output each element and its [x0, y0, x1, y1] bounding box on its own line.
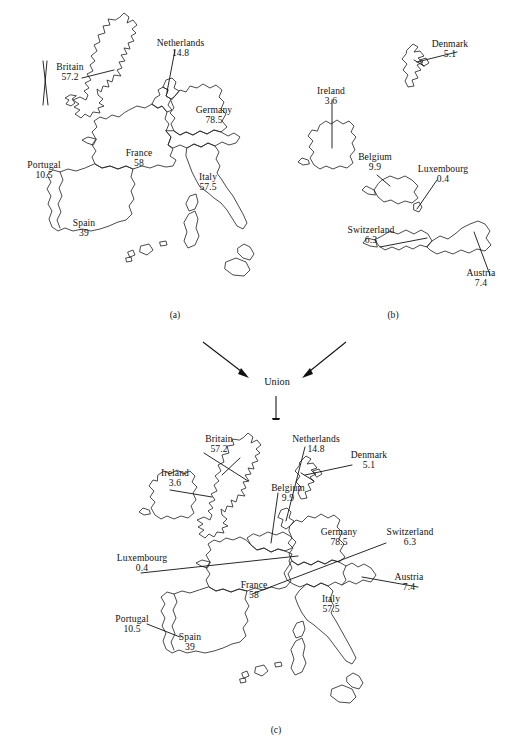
- label-value: 9.9: [261, 493, 315, 503]
- label-austria-c: Austria 7.4: [382, 572, 436, 592]
- arrow-from-panel-a: [203, 342, 249, 378]
- figure-root: Britain 57.2 Netherlands 14.8 Germany 78…: [0, 0, 514, 752]
- label-value: 5.1: [340, 460, 398, 470]
- label-value: 58: [228, 590, 280, 600]
- label-value: 10.5: [103, 624, 161, 634]
- balearic-menorca-c: [275, 662, 282, 667]
- ireland-west-tip-c: [139, 508, 150, 515]
- label-germany-c: Germany 78.5: [310, 527, 368, 547]
- label-portugal-c: Portugal 10.5: [103, 614, 161, 634]
- label-france-c: France 58: [228, 580, 280, 600]
- britain-leader-c: [204, 453, 248, 481]
- label-italy-c: Italy 57.5: [309, 594, 353, 614]
- arrow-from-panel-b: [302, 342, 346, 378]
- label-belgium-c: Belgium 9.9: [261, 483, 315, 503]
- arrow-to-panel-c: [272, 396, 280, 420]
- label-value: 7.4: [382, 582, 436, 592]
- label-value: 3.6: [147, 478, 203, 488]
- balearic-ibiza-c: [242, 671, 249, 678]
- label-value: 39: [168, 642, 212, 652]
- label-ireland-c: Ireland 3.6: [147, 468, 203, 488]
- italy-toe-outline-c: [347, 673, 363, 689]
- label-value: 57.2: [190, 444, 248, 454]
- label-switzerland-c: Switzerland 6.3: [372, 527, 448, 547]
- balearic-formentera-c: [240, 678, 246, 683]
- label-luxembourg-c: Luxembourg 0.4: [104, 553, 180, 573]
- sardinia-outline-c: [291, 638, 306, 675]
- union-arrows: [0, 0, 514, 420]
- netherlands-outline-c: [278, 508, 294, 529]
- sicily-outline-c: [331, 685, 356, 703]
- label-spain-c: Spain 39: [168, 632, 212, 652]
- austria-border-c: [342, 566, 346, 585]
- union-label: Union: [249, 376, 305, 387]
- label-britain-c: Britain 57.2: [190, 434, 248, 454]
- label-value: 6.3: [372, 537, 448, 547]
- panel-c-caption: (c): [261, 724, 291, 735]
- balearic-mallorca-c: [255, 665, 268, 676]
- label-value: 57.5: [309, 604, 353, 614]
- label-value: 0.4: [104, 563, 180, 573]
- ireland-leader-c: [170, 490, 212, 497]
- label-value: 78.5: [310, 537, 368, 547]
- corsica-outline-c: [293, 621, 305, 638]
- label-denmark-c: Denmark 5.1: [340, 450, 398, 470]
